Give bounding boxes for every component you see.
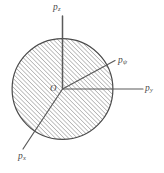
p-z-axis-label: pz [53, 3, 60, 13]
figure-canvas: O pz pψ py px [0, 0, 164, 173]
p-x-label-subscript: x [23, 154, 26, 161]
p-y-axis-label: py [145, 84, 153, 94]
p-y-label-subscript: y [150, 86, 153, 93]
diagram-svg [0, 0, 164, 173]
p-psi-label-subscript: ψ [123, 58, 127, 65]
origin-label: O [50, 84, 57, 93]
p-x-axis-label: px [18, 152, 26, 162]
p-z-label-subscript: z [58, 5, 61, 12]
p-psi-axis-label: pψ [118, 56, 127, 66]
